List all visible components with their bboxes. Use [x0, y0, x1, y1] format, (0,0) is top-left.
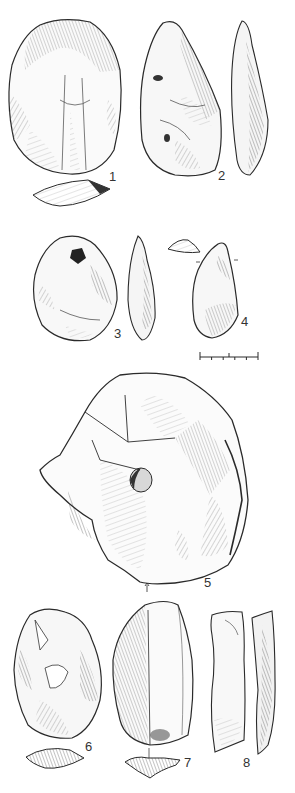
artifact-label-2: 2	[218, 169, 225, 182]
artifact-drawings	[0, 0, 295, 793]
artifact-label-7: 7	[184, 756, 191, 769]
artifact-2-profile	[232, 21, 268, 175]
artifact-8-face	[211, 611, 245, 752]
artifact-2-face	[141, 22, 222, 176]
artifact-4-face	[193, 243, 238, 338]
artifact-3-face	[34, 236, 118, 341]
artifact-label-8: 8	[243, 756, 250, 769]
artifact-1-face	[9, 20, 121, 174]
artifact-1-section	[33, 180, 110, 206]
artifact-label-4: 4	[241, 315, 248, 328]
artifact-4-section	[168, 240, 200, 253]
artifact-8-profile	[252, 611, 275, 754]
artifact-label-3: 3	[114, 327, 121, 340]
artifact-plate: 1 2 3 4 5 6 7 8	[0, 0, 295, 793]
artifact-3-profile	[128, 236, 155, 340]
artifact-6-face	[14, 609, 101, 738]
artifact-7-face	[113, 602, 193, 746]
artifact-label-6: 6	[85, 740, 92, 753]
scale-bar	[200, 352, 258, 360]
artifact-5-face	[40, 373, 248, 592]
artifact-label-1: 1	[109, 170, 116, 183]
artifact-label-5: 5	[204, 576, 211, 589]
artifact-7-section	[125, 748, 180, 778]
artifact-6-section	[26, 749, 84, 769]
